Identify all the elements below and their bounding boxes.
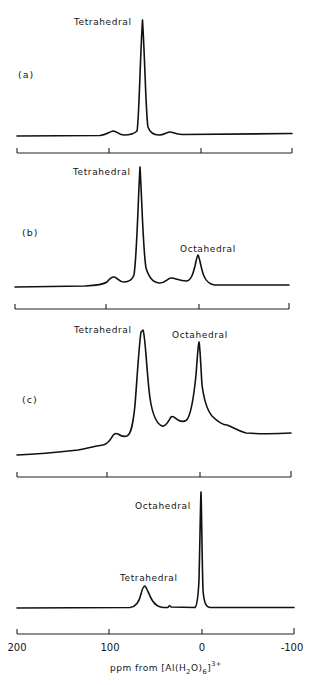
x-axis-label-prefix: ppm from [Al(H — [110, 663, 186, 673]
spectrum-a — [17, 20, 292, 136]
panel-b: (b) Tetrahedral Octahedral — [15, 167, 289, 309]
x-axis-b — [15, 303, 289, 309]
annotation-octahedral-c: Octahedral — [172, 330, 228, 340]
nmr-figure: (a) Tetrahedral (b) Tetrahedral Octahedr… — [0, 0, 318, 685]
panel-label-c: (c) — [22, 394, 38, 405]
spectrum-b — [15, 167, 289, 287]
annotation-tetrahedral-b: Tetrahedral — [72, 167, 131, 177]
annotation-tetrahedral-d: Tetrahedral — [119, 573, 178, 583]
x-tick-200: 200 — [7, 642, 26, 653]
x-tick-0: 0 — [199, 642, 205, 653]
annotation-octahedral-d: Octahedral — [135, 501, 191, 511]
x-axis-c — [17, 471, 291, 477]
x-axis-a — [17, 148, 292, 153]
x-tick-minus-100: -100 — [281, 642, 304, 653]
x-axis-d — [17, 628, 294, 634]
x-axis-label-mid: O) — [191, 663, 203, 673]
x-axis-label: ppm from [Al(H2O)6]3+ — [110, 660, 222, 676]
panel-label-a: (a) — [18, 69, 34, 80]
spectrum-c — [17, 330, 291, 455]
x-axis-label-sup: 3+ — [211, 660, 222, 668]
panel-a: (a) Tetrahedral — [17, 17, 292, 153]
annotation-octahedral-b: Octahedral — [180, 244, 236, 254]
annotation-tetrahedral-c: Tetrahedral — [73, 325, 132, 335]
panel-label-b: (b) — [22, 227, 38, 238]
x-tick-labels: 200 100 0 -100 — [7, 642, 303, 653]
panel-c: (c) Tetrahedral Octahedral — [17, 325, 291, 477]
x-tick-100: 100 — [100, 642, 119, 653]
panel-d: Octahedral Tetrahedral 200 100 0 -100 pp… — [7, 492, 303, 676]
annotation-tetrahedral-a: Tetrahedral — [73, 17, 132, 27]
